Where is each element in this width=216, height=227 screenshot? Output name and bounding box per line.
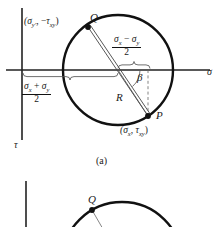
mohrs-circle-figure-b-partial: Q: [0, 0, 216, 227]
figure-b-point-q-label: Q: [88, 194, 96, 205]
figure-b-radius-segment: [92, 210, 122, 227]
figure-b-point-q-marker: [89, 207, 95, 213]
figure-b-mohrs-circle: [62, 202, 182, 227]
figure-b-svg: [0, 0, 216, 227]
